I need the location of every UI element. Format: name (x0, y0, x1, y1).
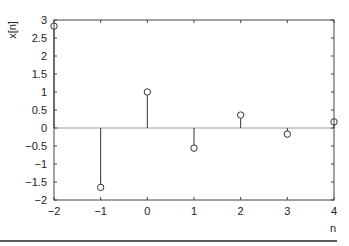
x-tick-label: −2 (48, 205, 61, 217)
axes-box (54, 20, 334, 200)
x-tick-label: 4 (331, 205, 337, 217)
stem-marker (97, 184, 103, 190)
y-tick-label: −0.5 (25, 140, 47, 152)
y-tick-label: 1 (41, 86, 47, 98)
plot-frame (54, 20, 334, 200)
stem-plot: 32.521.510.50−0.5−1−1.5−2 −2−101234 x[n]… (0, 0, 349, 246)
y-tick-label: 1.5 (32, 68, 47, 80)
x-axis-ticks: −2−101234 (48, 20, 337, 217)
x-tick-label: 1 (191, 205, 197, 217)
stem-marker (144, 89, 150, 95)
x-tick-label: 2 (238, 205, 244, 217)
stem-series (51, 23, 337, 191)
x-tick-label: −1 (94, 205, 107, 217)
stem-marker (237, 112, 243, 118)
y-tick-label: −1.5 (25, 176, 47, 188)
y-tick-label: 2 (41, 50, 47, 62)
y-axis-ticks: 32.521.510.50−0.5−1−1.5−2 (25, 14, 334, 206)
y-tick-label: −2 (34, 194, 47, 206)
y-tick-label: 0 (41, 122, 47, 134)
x-axis-label: n (330, 222, 336, 234)
x-tick-label: 0 (144, 205, 150, 217)
y-tick-label: 3 (41, 14, 47, 26)
y-tick-label: 2.5 (32, 32, 47, 44)
y-tick-label: −1 (34, 158, 47, 170)
y-axis-label: x[n] (6, 21, 18, 39)
x-tick-label: 3 (284, 205, 290, 217)
stem-marker (284, 131, 290, 137)
y-tick-label: 0.5 (32, 104, 47, 116)
stem-marker (191, 145, 197, 151)
